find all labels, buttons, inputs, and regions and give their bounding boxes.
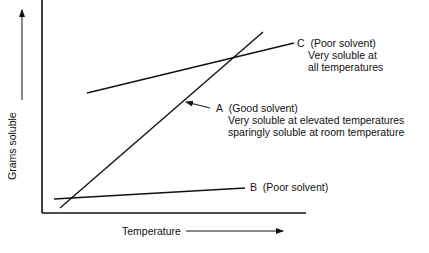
curve-a-title: (Good solvent): [229, 102, 298, 114]
curve-a-desc1: Very soluble at elevated temperatures: [228, 114, 404, 127]
curve-b: [54, 188, 245, 199]
curve-c-desc1: Very soluble at: [308, 49, 377, 62]
x-axis-label: Temperature: [122, 225, 181, 238]
curve-b-letter: B: [250, 181, 257, 193]
curve-c: [87, 43, 294, 93]
curve-b-title: (Poor solvent): [263, 181, 328, 193]
curve-a-desc2: sparingly soluble at room temperature: [228, 126, 404, 139]
curve-a-pointer: [186, 102, 210, 108]
curve-c-title: (Poor solvent): [310, 37, 375, 49]
curve-b-label: B (Poor solvent): [250, 181, 328, 194]
curve-a-label: A (Good solvent): [216, 102, 298, 115]
curve-c-letter: C: [297, 37, 305, 49]
curve-a-letter: A: [216, 102, 223, 114]
curve-c-label: C (Poor solvent): [297, 37, 376, 50]
curve-c-desc2: all temperatures: [308, 61, 383, 74]
y-axis-label: Grams soluble: [6, 112, 18, 180]
